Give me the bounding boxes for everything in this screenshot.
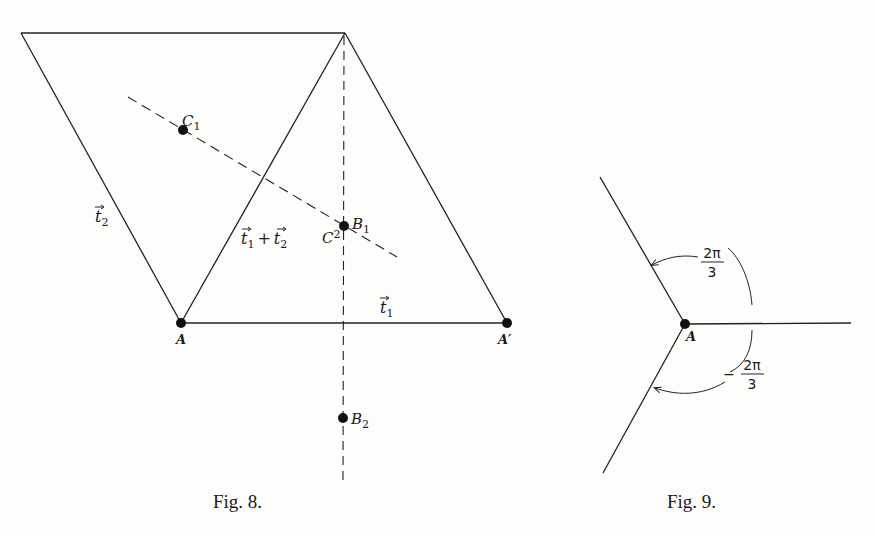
fig9-arc-negative <box>655 330 752 393</box>
svg-text:3: 3 <box>748 376 757 392</box>
label-C2: C2 <box>322 228 340 247</box>
point-A-prime <box>502 318 512 328</box>
label-A-prime: A′ <box>496 332 512 347</box>
vector-label-t1-plus-t2: t1+t2 <box>241 227 287 251</box>
fig9-angle-negative: − 2π 3 <box>723 357 764 392</box>
label-B2: B2 <box>350 410 369 431</box>
svg-text:t1: t1 <box>380 298 393 320</box>
fig8-right-edge <box>345 33 507 323</box>
fig8-diagram <box>21 33 507 484</box>
fig8-t2-edge <box>21 33 181 323</box>
fig8-caption: Fig. 8. <box>213 491 262 512</box>
fig9-label-A: A <box>684 329 696 344</box>
point-A <box>176 318 186 328</box>
fig8-sum-edge <box>181 33 345 323</box>
vector-label-t2: t2 <box>95 205 108 229</box>
point-B1-C2 <box>339 221 349 231</box>
fig8-points <box>176 125 512 423</box>
point-B2 <box>338 413 348 423</box>
fig9-ray-upper <box>600 177 685 324</box>
svg-text:t1+t2: t1+t2 <box>241 229 287 251</box>
fig9-caption: Fig. 9. <box>667 491 716 512</box>
label-C1: C1 <box>182 112 200 133</box>
svg-text:3: 3 <box>708 264 717 280</box>
fig9-point-A <box>680 319 690 329</box>
label-A: A <box>174 332 186 347</box>
vector-label-t1: t1 <box>380 296 393 320</box>
fig9-ray-right <box>685 323 851 324</box>
fig9-arc-positive <box>652 248 752 305</box>
svg-text:−: − <box>723 366 735 382</box>
label-B1: B1 <box>351 215 370 236</box>
svg-text:2π: 2π <box>743 357 761 373</box>
svg-text:2π: 2π <box>703 245 721 261</box>
fig9-diagram <box>600 177 851 473</box>
fig9-angle-positive: 2π 3 <box>701 245 724 280</box>
fig9-ray-lower <box>603 324 685 473</box>
fig8-labels: C1 B1 C2 B2 A A′ t2 t1 t1+t2 <box>95 112 512 431</box>
svg-text:t2: t2 <box>95 207 108 229</box>
figure-canvas: C1 B1 C2 B2 A A′ t2 t1 t1+t2 Fig. 8. A <box>0 0 875 537</box>
